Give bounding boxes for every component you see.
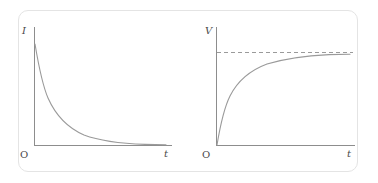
y-axis-label-voltage: V <box>205 25 214 36</box>
chart-panels: I t O V t O <box>0 0 378 183</box>
voltage-rise-curve <box>217 54 350 145</box>
x-axis-label-voltage: t <box>347 148 352 159</box>
current-decay-curve <box>35 44 166 145</box>
voltage-chart-svg: V t O <box>185 0 378 183</box>
chart-panel-voltage: V t O <box>185 0 378 183</box>
current-chart-svg: I t O <box>0 0 190 183</box>
origin-label-current: O <box>20 149 28 160</box>
chart-panel-current: I t O <box>0 0 190 183</box>
figure-root: I t O V t O <box>0 0 378 183</box>
x-axis-label-current: t <box>164 148 169 159</box>
y-axis-label-current: I <box>21 25 27 36</box>
origin-label-voltage: O <box>202 149 210 160</box>
